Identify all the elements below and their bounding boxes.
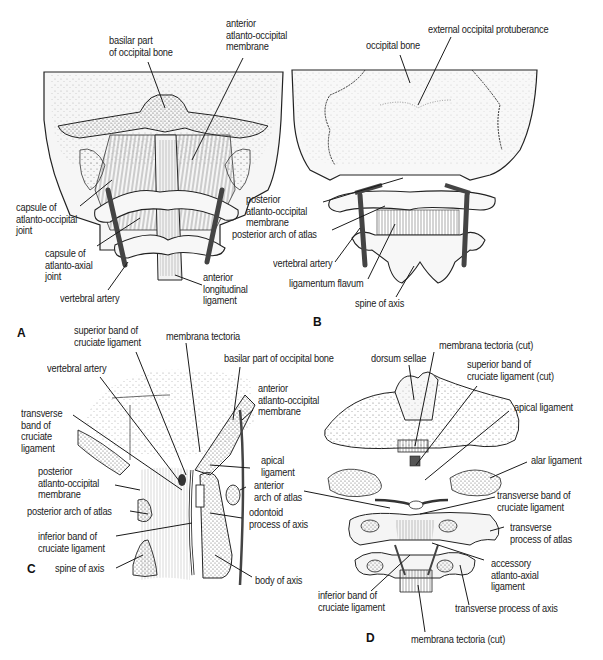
label-apical-ligament-c: apical ligament (261, 455, 295, 478)
label-inferior-band-cruciate-ligament-d: inferior band of cruciate ligament (318, 590, 385, 613)
label-capsule-atlanto-axial-joint: capsule of atlanto-axial joint (45, 248, 93, 283)
panel-letter-c: C (27, 562, 36, 576)
label-transverse-process-axis: transverse process of axis (455, 603, 558, 615)
label-superior-band-cruciate-ligament-cut: superior band of cruciate ligament (cut) (467, 359, 554, 382)
label-anterior-longitudinal-ligament: anterior longitudinal ligament (203, 272, 248, 307)
label-inferior-band-cruciate-ligament-c: inferior band of cruciate ligament (38, 531, 105, 554)
label-membrana-tectoria-c: membrana tectoria (166, 331, 240, 343)
panel-d-artwork (325, 372, 519, 592)
label-posterior-arch-atlas-c: posterior arch of atlas (27, 506, 112, 518)
label-body-of-axis: body of axis (255, 575, 302, 587)
label-accessory-atlanto-axial-ligament: accessory atlanto-axial ligament (491, 558, 539, 593)
label-vertebral-artery-c: vertebral artery (47, 363, 106, 375)
label-dorsum-sellae: dorsum sellae (371, 353, 426, 365)
label-transverse-band-cruciate-ligament-d: transverse band of cruciate ligament (497, 490, 570, 513)
label-spine-of-axis-c: spine of axis (55, 563, 104, 575)
label-membrana-tectoria-cut-top: membrana tectoria (cut) (439, 340, 533, 352)
label-transverse-process-atlas: transverse process of atlas (510, 522, 572, 545)
label-odontoid-process-axis: odontoid process of axis (249, 507, 308, 530)
panel-b-artwork (292, 70, 537, 283)
label-transverse-band-cruciate-ligament-c: transverse band of cruciate ligament (21, 408, 62, 454)
panel-letter-a: A (17, 326, 26, 340)
label-apical-ligament-d: apical ligament (514, 402, 573, 414)
panel-letter-b: B (313, 315, 322, 329)
label-anterior-atlanto-occipital-membrane: anterior atlanto-occipital membrane (226, 18, 287, 53)
label-anterior-arch-atlas-c: anterior arch of atlas (254, 480, 302, 503)
label-posterior-arch-atlas-b: posterior arch of atlas (232, 229, 317, 241)
label-membrana-tectoria-cut-bottom: membrana tectoria (cut) (411, 634, 505, 646)
label-posterior-atlanto-occipital-membrane: posterior atlanto-occipital membrane (246, 194, 307, 229)
label-basilar-part-occipital-bone-c: basilar part of occipital bone (224, 353, 334, 365)
label-basilar-part-occipital-bone: basilar part of occipital bone (109, 35, 173, 58)
label-vertebral-artery-b: vertebral artery (273, 258, 332, 270)
label-spine-of-axis-b: spine of axis (355, 298, 404, 310)
label-ligamentum-flavum: ligamentum flavum (289, 278, 364, 290)
label-anterior-atlanto-occipital-membrane-c: anterior atlanto-occipital membrane (258, 383, 319, 418)
label-superior-band-cruciate-ligament-c: superior band of cruciate ligament (74, 325, 141, 348)
panel-letter-d: D (366, 631, 375, 645)
label-alar-ligament: alar ligament (531, 455, 582, 467)
label-vertebral-artery-a: vertebral artery (60, 293, 119, 305)
label-capsule-atlanto-occipital-joint: capsule of atlanto-occipital joint (16, 202, 77, 237)
label-posterior-atlanto-occipital-membrane-c: posterior atlanto-occipital membrane (38, 466, 99, 501)
label-external-occipital-protuberance: external occipital protuberance (428, 24, 548, 36)
label-occipital-bone: occipital bone (366, 40, 420, 52)
